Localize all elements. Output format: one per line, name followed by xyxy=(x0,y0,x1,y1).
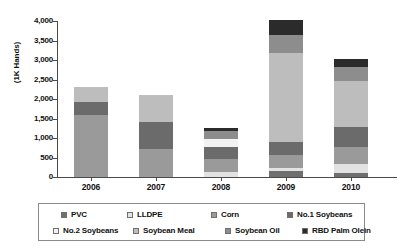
bar-segment xyxy=(74,115,108,177)
legend-label: Soybean Meal xyxy=(143,227,195,235)
x-tick-label: 2009 xyxy=(256,182,316,192)
legend-swatch-icon xyxy=(302,228,308,234)
bar-2009 xyxy=(269,20,303,177)
legend-label: LLDPE xyxy=(137,211,162,219)
bar-2006 xyxy=(74,87,108,177)
legend-item[interactable]: RBD Palm Olein xyxy=(302,223,366,239)
bar-segment xyxy=(269,35,303,52)
x-tick-label: 2008 xyxy=(191,182,251,192)
chart-legend: PVCLLDPECornNo.1 Soybeans No.2 SoybeansS… xyxy=(38,203,365,241)
bar-segment xyxy=(204,172,238,177)
legend-item[interactable]: Corn xyxy=(211,207,287,223)
x-tick-label: 2006 xyxy=(61,182,121,192)
x-tick-label: 2007 xyxy=(126,182,186,192)
legend-label: No.2 Soybeans xyxy=(63,227,118,235)
legend-row-top: PVCLLDPECornNo.1 Soybeans xyxy=(39,207,366,223)
legend-swatch-icon xyxy=(53,228,59,234)
legend-label: Corn xyxy=(221,211,239,219)
legend-item[interactable]: LLDPE xyxy=(127,207,211,223)
bar-2007 xyxy=(139,95,173,177)
legend-item[interactable]: PVC xyxy=(39,207,127,223)
legend-row-bottom: No.2 SoybeansSoybean MealSoybean OilRBD … xyxy=(39,223,366,239)
legend-label: RBD Palm Olein xyxy=(312,227,371,235)
bar-segment xyxy=(269,155,303,169)
legend-swatch-icon xyxy=(127,212,133,218)
legend-swatch-icon xyxy=(225,228,231,234)
bar-segment xyxy=(74,87,108,102)
bar-segment xyxy=(334,81,368,127)
bar-segment xyxy=(334,67,368,81)
legend-swatch-icon xyxy=(61,212,67,218)
legend-label: Soybean Oil xyxy=(235,227,280,235)
bar-segment xyxy=(334,173,368,177)
bar-segment xyxy=(139,95,173,122)
plot-area: (1K Hands) 05001,0001,5002,0002,5003,000… xyxy=(0,0,403,196)
stacked-bar-chart: (1K Hands) 05001,0001,5002,0002,5003,000… xyxy=(0,0,403,249)
bar-segment xyxy=(269,53,303,142)
bar-segment xyxy=(269,171,303,177)
bar-segment xyxy=(269,20,303,35)
legend-swatch-icon xyxy=(287,212,293,218)
bar-segment xyxy=(269,168,303,170)
bar-segment xyxy=(204,131,238,140)
bar-segment xyxy=(334,147,368,165)
x-tick-label: 2010 xyxy=(321,182,381,192)
bar-segment xyxy=(204,128,238,131)
legend-item[interactable]: No.1 Soybeans xyxy=(287,207,366,223)
bar-segment xyxy=(204,159,238,171)
bar-segment xyxy=(334,164,368,173)
bar-segment xyxy=(204,139,238,146)
bar-segment xyxy=(334,59,368,67)
legend-swatch-icon xyxy=(133,228,139,234)
bar-segment xyxy=(139,122,173,149)
legend-item[interactable]: Soybean Oil xyxy=(225,223,302,239)
bar-2010 xyxy=(334,59,368,177)
bar-segment xyxy=(269,142,303,155)
legend-item[interactable]: Soybean Meal xyxy=(133,223,225,239)
bar-2008 xyxy=(204,128,238,177)
bar-segment xyxy=(204,147,238,160)
bars-layer xyxy=(0,0,403,196)
legend-item[interactable]: No.2 Soybeans xyxy=(39,223,133,239)
bar-segment xyxy=(74,102,108,115)
bar-segment xyxy=(139,149,173,177)
legend-label: No.1 Soybeans xyxy=(297,211,352,219)
legend-swatch-icon xyxy=(211,212,217,218)
legend-label: PVC xyxy=(71,211,87,219)
bar-segment xyxy=(334,127,368,147)
